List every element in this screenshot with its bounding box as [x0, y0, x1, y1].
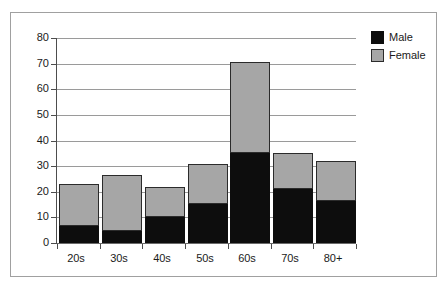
x-tick-mark: [313, 244, 314, 249]
y-tick-mark: [51, 64, 56, 65]
y-tick-mark: [51, 115, 56, 116]
bar-segment-female: [188, 164, 228, 203]
gridline: [57, 141, 356, 142]
y-tick-mark: [51, 166, 56, 167]
bar-segment-male: [273, 189, 313, 243]
bar-60s: [230, 62, 270, 243]
bar-segment-female: [145, 187, 185, 217]
bar-segment-male: [316, 201, 356, 243]
bar-80+: [316, 161, 356, 243]
x-tick-mark: [57, 244, 58, 249]
x-tick-mark: [356, 244, 357, 249]
x-axis-tick-label: 70s: [267, 253, 313, 264]
y-axis-tick-label: 60: [21, 83, 49, 94]
legend-item-male: Male: [371, 31, 433, 44]
bar-segment-female: [273, 153, 313, 189]
bar-segment-female: [316, 161, 356, 201]
bar-segment-female: [230, 62, 270, 153]
y-axis-tick-label: 40: [21, 135, 49, 146]
x-tick-mark: [271, 244, 272, 249]
female-swatch-icon: [371, 49, 384, 62]
legend-label-female: Female: [389, 50, 426, 61]
bar-30s: [102, 175, 142, 243]
bar-segment-male: [230, 153, 270, 243]
y-tick-mark: [51, 192, 56, 193]
x-tick-mark: [185, 244, 186, 249]
y-axis-tick-label: 30: [21, 160, 49, 171]
bar-70s: [273, 153, 313, 243]
plot-area: [57, 38, 356, 243]
legend-item-female: Female: [371, 49, 433, 62]
y-tick-mark: [51, 89, 56, 90]
x-tick-mark: [228, 244, 229, 249]
y-tick-mark: [51, 243, 56, 244]
x-axis-tick-label: 30s: [96, 253, 142, 264]
bar-40s: [145, 187, 185, 243]
x-axis-tick-label: 60s: [224, 253, 270, 264]
y-axis-tick-label: 80: [21, 32, 49, 43]
bar-segment-female: [59, 184, 99, 226]
male-swatch-icon: [371, 31, 384, 44]
chart-frame: 01020304050607080 Male Female 20s30s40s5…: [10, 12, 437, 277]
y-axis-tick-label: 50: [21, 109, 49, 120]
bar-50s: [188, 164, 228, 243]
y-axis-tick-label: 70: [21, 58, 49, 69]
y-axis-tick-label: 10: [21, 211, 49, 222]
y-tick-mark: [51, 38, 56, 39]
gridline: [57, 115, 356, 116]
y-tick-mark: [51, 217, 56, 218]
chart-legend: Male Female: [371, 31, 433, 67]
bar-segment-female: [102, 175, 142, 231]
y-tick-mark: [51, 141, 56, 142]
y-axis-tick-label: 20: [21, 186, 49, 197]
x-tick-mark: [142, 244, 143, 249]
bar-segment-male: [188, 204, 228, 243]
x-axis-tick-label: 50s: [182, 253, 228, 264]
y-axis-tick-label: 0: [21, 237, 49, 248]
gridline: [57, 64, 356, 65]
x-axis-tick-label: 80+: [310, 253, 356, 264]
x-axis-tick-label: 20s: [53, 253, 99, 264]
bar-segment-male: [59, 226, 99, 243]
bar-segment-male: [102, 231, 142, 243]
bar-segment-male: [145, 217, 185, 243]
x-axis-tick-label: 40s: [139, 253, 185, 264]
y-axis-labels: 01020304050607080: [11, 13, 49, 276]
x-tick-mark: [100, 244, 101, 249]
bar-20s: [59, 184, 99, 243]
gridline: [57, 243, 356, 244]
gridline: [57, 89, 356, 90]
gridline: [57, 38, 356, 39]
legend-label-male: Male: [389, 32, 413, 43]
